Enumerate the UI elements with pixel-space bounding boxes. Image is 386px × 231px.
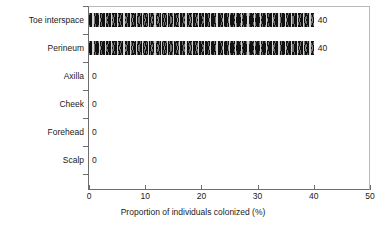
x-axis-tick [370, 185, 371, 190]
x-axis-ticks: 01020304050 [0, 190, 386, 208]
bar-value-label: 0 [92, 99, 97, 109]
y-axis-tick [83, 146, 88, 147]
bar-value-label: 0 [92, 71, 97, 81]
x-axis-tick-label: 40 [309, 191, 318, 201]
chart-row: Forehead0 [0, 118, 386, 146]
y-axis-tick [83, 6, 88, 7]
chart-row: Cheek0 [0, 90, 386, 118]
bar-value-label: 0 [92, 127, 97, 137]
y-axis-tick [83, 118, 88, 119]
y-axis-category-label: Cheek [59, 99, 84, 109]
bar-value-label: 40 [318, 43, 327, 53]
x-axis-tick [201, 185, 202, 190]
chart-row: Scalp0 [0, 146, 386, 174]
y-axis-category-label: Scalp [63, 155, 84, 165]
chart-row: Toe interspace40 [0, 6, 386, 34]
bar [89, 41, 314, 55]
y-axis-category-label: Axilla [64, 71, 84, 81]
x-axis-tick [145, 185, 146, 190]
y-axis-category-label: Toe interspace [29, 15, 84, 25]
bar [89, 13, 314, 27]
x-axis-tick-label: 20 [197, 191, 206, 201]
y-axis-category-label: Forehead [48, 127, 84, 137]
x-axis-tick [258, 185, 259, 190]
bar-value-label: 40 [318, 15, 327, 25]
bar-chart-figure: Toe interspace40Perineum40Axilla0Cheek0F… [0, 0, 386, 231]
y-axis-tick [83, 174, 88, 175]
chart-row: Axilla0 [0, 62, 386, 90]
y-axis-tick [83, 62, 88, 63]
y-axis-tick [83, 34, 88, 35]
bar-value-label: 0 [92, 155, 97, 165]
x-axis-tick-label: 0 [87, 191, 92, 201]
y-axis-tick [83, 90, 88, 91]
x-axis-tick [89, 185, 90, 190]
x-axis-tick-label: 10 [140, 191, 149, 201]
category-rows: Toe interspace40Perineum40Axilla0Cheek0F… [0, 6, 386, 190]
x-axis-tick-label: 50 [365, 191, 374, 201]
chart-row: Perineum40 [0, 34, 386, 62]
x-axis-tick-label: 30 [253, 191, 262, 201]
y-axis-category-label: Perineum [48, 43, 84, 53]
x-axis-tick [314, 185, 315, 190]
x-axis-title: Proportion of individuals colonized (%) [0, 207, 386, 218]
